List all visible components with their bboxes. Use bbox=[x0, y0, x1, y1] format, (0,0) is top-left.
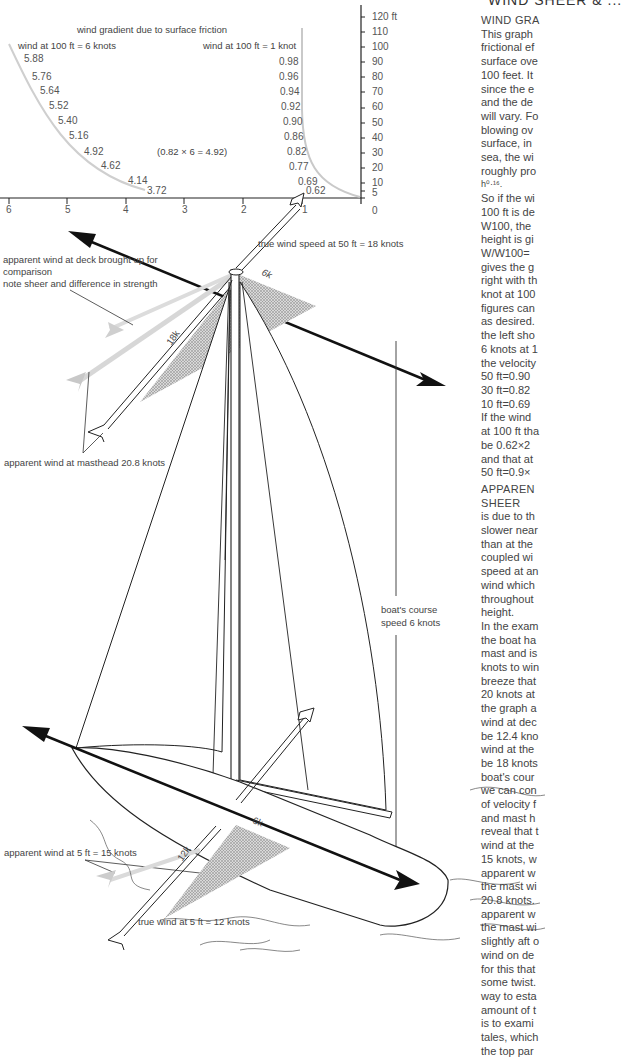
para-2: So if the wi 100 ft is de W100, the heig… bbox=[481, 192, 621, 411]
left-value: 4.14 bbox=[128, 175, 147, 186]
text-line: amount of t bbox=[481, 1004, 621, 1018]
text-line: slower near bbox=[481, 524, 621, 538]
text-line: gives the g bbox=[481, 261, 621, 275]
text-line: SHEER bbox=[481, 497, 621, 511]
text-line: some twist. bbox=[481, 976, 621, 990]
text-line: figures can bbox=[481, 302, 621, 316]
text-line: be 18 knots bbox=[481, 757, 621, 771]
right-value: 0.62 bbox=[306, 185, 325, 196]
text-line: be 12.4 kno bbox=[481, 730, 621, 744]
y-tick: 20 bbox=[372, 162, 383, 173]
example-calc: (0.82 × 6 = 4.92) bbox=[157, 146, 227, 157]
text-line: blowing ov bbox=[481, 124, 621, 138]
x-tick: 5 bbox=[65, 204, 71, 215]
para-3: If the wind at 100 ft tha be 0.62×2 and … bbox=[481, 411, 621, 480]
apparent-deck-note: apparent wind at deck brought up for bbox=[3, 254, 158, 265]
text-line: knot at 100 bbox=[481, 288, 621, 302]
text-line: coupled wi bbox=[481, 551, 621, 565]
y-tick: 0 bbox=[372, 205, 378, 216]
text-line: speed at an bbox=[481, 565, 621, 579]
true-5ft-label: true wind at 5 ft = 12 knots bbox=[138, 916, 250, 927]
left-value: 5.52 bbox=[49, 100, 68, 111]
mast bbox=[231, 270, 239, 830]
text-line: the graph a bbox=[481, 702, 621, 716]
para-1: This graph frictional ef surface ove 100… bbox=[481, 28, 621, 192]
true-wind-50ft-label: true wind speed at 50 ft = 18 knots bbox=[258, 238, 404, 249]
text-line: since the e bbox=[481, 83, 621, 97]
text-line: 10 ft=0.69 bbox=[481, 398, 621, 412]
right-value: 0.77 bbox=[289, 161, 308, 172]
text-line: 15 knots, w bbox=[481, 853, 621, 867]
text-line: slightly aft o bbox=[481, 935, 621, 949]
text-line: at 100 ft tha bbox=[481, 425, 621, 439]
text-line: tales, which bbox=[481, 1031, 621, 1045]
left-value: 5.40 bbox=[58, 115, 77, 126]
x-tick: 6 bbox=[6, 204, 12, 215]
y-tick: 100 bbox=[372, 41, 389, 52]
x-tick: 4 bbox=[123, 204, 129, 215]
text-line: is to exami bbox=[481, 1017, 621, 1031]
heading-apparent-sheer: APPAREN SHEER bbox=[481, 483, 621, 510]
boats-course-label: boat's course bbox=[381, 604, 437, 615]
text-line: In the exam bbox=[481, 620, 621, 634]
right-value: 0.94 bbox=[280, 86, 299, 97]
x-tick: 3 bbox=[182, 204, 188, 215]
text-line: 30 ft=0.82 bbox=[481, 384, 621, 398]
text-line: 50 ft=0.90 bbox=[481, 370, 621, 384]
text-line: way to esta bbox=[481, 990, 621, 1004]
text-line: be 0.62×2 bbox=[481, 439, 621, 453]
left-value: 3.72 bbox=[147, 185, 166, 196]
y-tick: 60 bbox=[372, 101, 383, 112]
y-tick: 110 bbox=[372, 26, 388, 37]
text-line: boat's cour bbox=[481, 771, 621, 785]
y-tick: 40 bbox=[372, 132, 383, 143]
text-line: than at the bbox=[481, 538, 621, 552]
main-sail bbox=[240, 282, 386, 810]
text-line: will vary. Fo bbox=[481, 110, 621, 124]
right-value: 0.86 bbox=[284, 131, 303, 142]
page-title: WIND SHEER & ... bbox=[488, 0, 622, 8]
right-value: 0.96 bbox=[279, 71, 298, 82]
text-line: knots to win bbox=[481, 661, 621, 675]
y-tick: 70 bbox=[372, 86, 383, 97]
text-line: the velocity bbox=[481, 357, 621, 371]
right-value: 0.98 bbox=[279, 56, 298, 67]
left-value: 5.88 bbox=[24, 53, 43, 64]
text-line: sea, the wi bbox=[481, 151, 621, 165]
boats-course-label: speed 6 knots bbox=[381, 617, 440, 628]
text-line: and the de bbox=[481, 96, 621, 110]
text-line: the mast wi bbox=[481, 921, 621, 935]
text-line: 50 ft=0.9× bbox=[481, 466, 621, 480]
text-line: the left sho bbox=[481, 329, 621, 343]
left-value: 4.92 bbox=[84, 146, 103, 157]
text-line: W100, the bbox=[481, 220, 621, 234]
text-line: 20 knots at bbox=[481, 688, 621, 702]
left-value: 5.16 bbox=[69, 130, 88, 141]
text-line: breeze that bbox=[481, 675, 621, 689]
text-line: reveal that t bbox=[481, 825, 621, 839]
text-line: we can con bbox=[481, 784, 621, 798]
gradient-curve-1-knot bbox=[302, 28, 360, 197]
text-line: 100 ft is de bbox=[481, 206, 621, 220]
text-line: wind which bbox=[481, 579, 621, 593]
left-value: 5.76 bbox=[32, 71, 51, 82]
heading-wind-gradient: WIND GRA bbox=[481, 14, 621, 28]
text-line: wind at the bbox=[481, 743, 621, 757]
text-line: roughly pro bbox=[481, 165, 621, 179]
text-line: throughout bbox=[481, 593, 621, 607]
y-tick: 120 ft bbox=[372, 11, 397, 22]
para-5: In the exam the boat ha mast and is knot… bbox=[481, 620, 621, 1058]
text-line: wind at the bbox=[481, 839, 621, 853]
text-line: wind at dec bbox=[481, 716, 621, 730]
left-value: 4.62 bbox=[101, 160, 120, 171]
text-line: of velocity f bbox=[481, 798, 621, 812]
text-line: 20.8 knots. bbox=[481, 894, 621, 908]
text-line: 6 knots at 1 bbox=[481, 343, 621, 357]
text-line: surface, in bbox=[481, 137, 621, 151]
graph-title: wind gradient due to surface friction bbox=[77, 24, 227, 35]
text-line: apparent w bbox=[481, 867, 621, 881]
text-line: wind on de bbox=[481, 949, 621, 963]
x-tick: 2 bbox=[241, 204, 247, 215]
text-line: 100 feet. It bbox=[481, 69, 621, 83]
text-line: height is gi bbox=[481, 233, 621, 247]
